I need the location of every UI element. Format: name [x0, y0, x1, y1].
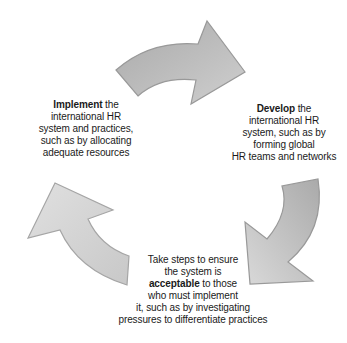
- step-develop-keyword: Develop: [257, 103, 295, 114]
- step-acceptable-line-2: the system is: [118, 266, 268, 278]
- step-implement-line-4: such as by allocating: [30, 135, 142, 147]
- step-develop-line-4: forming global: [228, 139, 340, 151]
- step-implement-line-3: system and practices,: [30, 123, 142, 135]
- step-acceptable-line-4: who must implement: [118, 290, 268, 302]
- arrow-top-icon: [116, 21, 245, 104]
- step-acceptable-line-1: Take steps to ensure: [118, 254, 268, 266]
- step-implement-line-2: international HR: [30, 111, 142, 123]
- step-implement: Implement the international HR system an…: [30, 99, 142, 159]
- step-develop-line-5: HR teams and networks: [228, 151, 340, 163]
- arrow-left-icon: [28, 183, 129, 285]
- step-acceptable-line-6: pressures to differentiate practices: [118, 314, 268, 326]
- step-acceptable: Take steps to ensure the system is accep…: [118, 254, 268, 326]
- step-develop: Develop the international HR system, suc…: [228, 103, 340, 163]
- step-acceptable-keyword: acceptable: [149, 278, 200, 289]
- step-develop-line-1: Develop the: [228, 103, 340, 115]
- step-acceptable-line-5: it, such as by investigating: [118, 302, 268, 314]
- step-acceptable-line-3: acceptable to those: [118, 278, 268, 290]
- step-develop-line-3: system, such as by: [228, 127, 340, 139]
- step-implement-line-1: Implement the: [30, 99, 142, 111]
- step-implement-line-5: adequate resources: [30, 147, 142, 159]
- step-implement-keyword: Implement: [53, 99, 102, 110]
- step-develop-line-2: international HR: [228, 115, 340, 127]
